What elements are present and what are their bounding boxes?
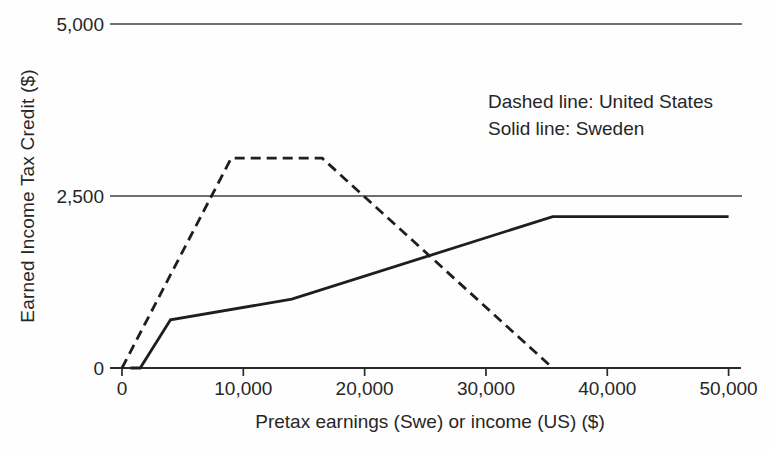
x-tick-label: 10,000 [214,378,272,399]
eitc-comparison-chart: 010,00020,00030,00040,00050,00002,5005,0… [0,0,771,451]
y-tick-label: 0 [93,358,104,379]
series-sweden [131,217,729,368]
x-axis-title: Pretax earnings (Swe) or income (US) ($) [255,411,605,433]
y-tick-label: 5,000 [56,14,104,35]
y-tick-label: 2,500 [56,186,104,207]
x-tick-label: 0 [117,378,128,399]
x-tick-label: 40,000 [578,378,636,399]
x-tick-label: 50,000 [700,378,758,399]
x-tick-label: 20,000 [336,378,394,399]
legend: Dashed line: United States Solid line: S… [488,88,713,142]
series-united-states [122,158,553,368]
plot-area: 010,00020,00030,00040,00050,00002,5005,0… [0,0,771,451]
legend-entry-sweden: Solid line: Sweden [488,115,713,142]
x-tick-label: 30,000 [457,378,515,399]
legend-entry-united-states: Dashed line: United States [488,88,713,115]
y-axis-title: Earned Income Tax Credit ($) [17,69,39,322]
